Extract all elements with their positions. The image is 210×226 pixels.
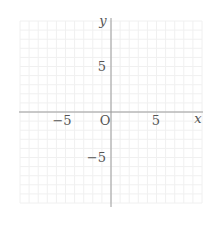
x-tick-label-5: 5 <box>152 113 160 128</box>
y-axis-label: y <box>98 13 107 28</box>
y-tick-label-5: 5 <box>98 59 106 74</box>
x-tick-label-neg5: −5 <box>52 113 71 128</box>
x-axis-label: x <box>194 111 202 126</box>
coordinate-plane: y x O −5 5 5 −5 <box>0 0 210 226</box>
origin-label: O <box>100 113 111 128</box>
y-tick-label-neg5: −5 <box>87 150 106 165</box>
